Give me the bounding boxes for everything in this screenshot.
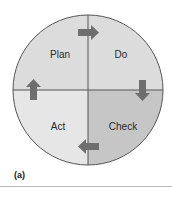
- label-check: Check: [109, 121, 138, 132]
- label-act: Act: [51, 121, 66, 132]
- label-plan: Plan: [50, 49, 70, 60]
- pdca-diagram: Plan Do Check Act: [0, 0, 172, 200]
- figure-caption: (a): [14, 170, 25, 180]
- divider-rule: [0, 186, 172, 187]
- label-do: Do: [115, 49, 128, 60]
